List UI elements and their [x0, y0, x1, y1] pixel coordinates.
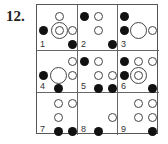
- open-circle-small-icon: [68, 26, 77, 35]
- open-circle-small-icon: [94, 12, 103, 21]
- open-circle-small-icon: [54, 113, 63, 122]
- open-circle-small-icon: [134, 113, 143, 122]
- grid-cell-1: 1: [37, 5, 78, 51]
- grid-cell-3: 3: [118, 5, 159, 51]
- open-circle-small-icon: [68, 99, 77, 108]
- filled-circle-small-icon: [54, 127, 63, 136]
- puzzle-grid: 123456789: [36, 4, 158, 134]
- cell-label: 4: [40, 81, 45, 91]
- grid-cell-4: 4: [37, 51, 78, 93]
- filled-circle-small-icon: [39, 71, 48, 80]
- filled-circle-small-icon: [120, 12, 129, 21]
- grid-cell-8: 8: [78, 93, 118, 135]
- filled-circle-small-icon: [108, 40, 117, 49]
- cell-label: 3: [121, 39, 126, 49]
- filled-circle-small-icon: [80, 12, 89, 21]
- open-circle-small-icon: [134, 71, 143, 80]
- open-circle-small-icon: [148, 113, 157, 122]
- grid-cell-5: 5: [78, 51, 118, 93]
- open-circle-large-icon: [130, 22, 147, 39]
- open-circle-small-icon: [55, 26, 64, 35]
- cell-label: 7: [40, 124, 45, 134]
- open-circle-small-icon: [55, 12, 64, 21]
- filled-circle-small-icon: [120, 57, 129, 66]
- filled-circle-small-icon: [94, 84, 103, 93]
- filled-circle-small-icon: [68, 40, 77, 49]
- question-number: 12.: [6, 8, 25, 25]
- filled-circle-small-icon: [68, 127, 77, 136]
- open-circle-small-icon: [54, 99, 63, 108]
- filled-circle-small-icon: [148, 127, 157, 136]
- open-circle-small-icon: [108, 71, 117, 80]
- grid-cell-6: 6: [118, 51, 159, 93]
- open-circle-small-icon: [134, 57, 143, 66]
- open-circle-small-icon: [68, 71, 77, 80]
- cell-label: 2: [81, 39, 86, 49]
- filled-circle-small-icon: [120, 26, 129, 35]
- open-circle-small-icon: [148, 99, 157, 108]
- cell-label: 5: [81, 81, 86, 91]
- grid-cell-7: 7: [37, 93, 78, 135]
- grid-cell-9: 9: [118, 93, 159, 135]
- open-circle-small-icon: [134, 99, 143, 108]
- filled-circle-small-icon: [108, 84, 117, 93]
- filled-circle-small-icon: [54, 84, 63, 93]
- grid-cell-2: 2: [78, 5, 118, 51]
- filled-circle-small-icon: [120, 71, 129, 80]
- open-circle-small-icon: [94, 26, 103, 35]
- open-circle-small-icon: [94, 71, 103, 80]
- cell-label: 8: [81, 124, 86, 134]
- filled-circle-small-icon: [39, 26, 48, 35]
- cell-label: 6: [121, 81, 126, 91]
- open-circle-small-icon: [94, 57, 103, 66]
- cell-label: 9: [121, 124, 126, 134]
- cell-label: 1: [40, 39, 45, 49]
- open-circle-small-icon: [148, 26, 157, 35]
- open-circle-small-icon: [148, 57, 157, 66]
- open-circle-large-icon: [50, 67, 67, 84]
- open-circle-small-icon: [108, 113, 117, 122]
- filled-circle-small-icon: [148, 84, 157, 93]
- filled-circle-small-icon: [94, 127, 103, 136]
- filled-circle-small-icon: [80, 57, 89, 66]
- open-circle-small-icon: [68, 57, 77, 66]
